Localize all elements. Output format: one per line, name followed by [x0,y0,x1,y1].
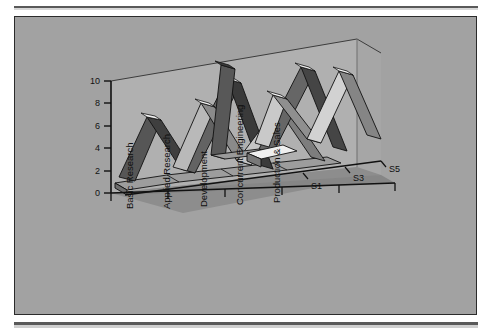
chart-figure-box: 10 8 6 4 2 0 Basic Research Applied Rese… [14,16,477,315]
y-tick-label-8: 8 [95,98,100,108]
y-tick-label-4: 4 [95,143,100,153]
category-label-basic-research: Basic Research [124,142,135,209]
category-label-development: Development [198,151,209,207]
category-label-applied-research: Applied Research [161,134,172,209]
series-label-s1: S1 [311,181,322,191]
series-label-s3: S3 [353,173,364,183]
top-horizontal-rule [14,6,478,8]
y-tick-label-0: 0 [95,188,100,198]
series-label-s5: S5 [389,164,400,174]
category-label-concurrent-engineering: Concurrent Engineering [234,105,245,205]
y-tick-label-6: 6 [95,121,100,131]
category-label-production-and-sales: Production & Sales [271,122,282,203]
y-axis-ticks [104,81,111,193]
y-tick-label-2: 2 [95,166,100,176]
y-tick-label-10: 10 [90,76,100,86]
three-d-ribbon-chart: 10 8 6 4 2 0 Basic Research Applied Rese… [15,17,475,313]
bottom-horizontal-rule [14,322,478,325]
